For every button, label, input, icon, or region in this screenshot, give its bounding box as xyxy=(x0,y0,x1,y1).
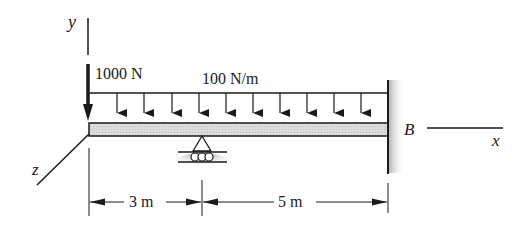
fixed-wall xyxy=(388,80,405,174)
roller-support xyxy=(174,136,230,173)
z-axis-label: z xyxy=(31,160,39,179)
z-axis: z xyxy=(31,134,89,185)
beam-diagram: y 1000 N 100 N/m B x xyxy=(0,0,531,234)
x-axis: x xyxy=(427,128,503,150)
beam xyxy=(89,123,388,136)
dimension-label-5m: 5 m xyxy=(278,193,303,210)
point-load-label: 1000 N xyxy=(95,65,143,82)
y-axis-label: y xyxy=(66,12,76,32)
x-axis-label: x xyxy=(491,131,500,150)
dimension-label-3m: 3 m xyxy=(129,193,154,210)
distributed-load-label: 100 N/m xyxy=(202,70,259,87)
y-axis: y xyxy=(66,12,88,55)
fixed-end-label: B xyxy=(404,120,415,139)
dimensions: 3 m 5 m xyxy=(89,148,388,216)
load-arrows xyxy=(117,93,361,113)
